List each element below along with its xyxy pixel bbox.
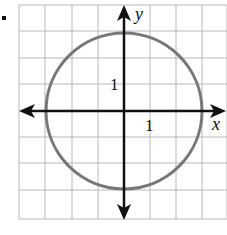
y-tick-label: 1 [110, 75, 119, 95]
y-axis-label: y [135, 4, 143, 25]
coordinate-plane [0, 0, 227, 235]
x-axis-label: x [212, 114, 220, 135]
x-tick-label: 1 [145, 116, 154, 136]
